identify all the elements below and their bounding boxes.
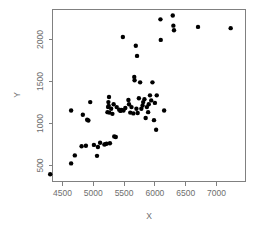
y-tick-group: 500 bbox=[35, 158, 52, 172]
data-point bbox=[162, 108, 166, 112]
data-point bbox=[95, 154, 99, 158]
y-axis-title: Y bbox=[12, 92, 22, 98]
data-point bbox=[159, 38, 163, 42]
data-point bbox=[149, 98, 153, 102]
data-point bbox=[196, 25, 200, 29]
data-point bbox=[107, 95, 111, 99]
y-tick-label: 2000 bbox=[35, 30, 45, 49]
data-point bbox=[142, 97, 146, 101]
data-point bbox=[121, 35, 125, 39]
data-point bbox=[132, 78, 136, 82]
x-tick-label: 5500 bbox=[115, 188, 134, 198]
data-point bbox=[147, 102, 151, 106]
data-point bbox=[155, 93, 159, 97]
data-point bbox=[134, 107, 138, 111]
data-point bbox=[143, 116, 147, 120]
data-point bbox=[84, 144, 88, 148]
x-tick-group: 5000 bbox=[84, 182, 103, 199]
y-tick-group: 1500 bbox=[35, 72, 52, 91]
data-point bbox=[131, 111, 135, 115]
data-point bbox=[152, 118, 156, 122]
data-point bbox=[81, 112, 85, 116]
x-tick-group: 5500 bbox=[115, 182, 134, 199]
data-point bbox=[129, 105, 133, 109]
data-point bbox=[137, 96, 141, 100]
plot-canvas: 500 1000 1500 2000 Y 4500 bbox=[0, 0, 265, 233]
data-point bbox=[134, 44, 138, 48]
data-point bbox=[106, 100, 110, 104]
data-point bbox=[109, 107, 113, 111]
x-tick-group: 4500 bbox=[53, 182, 72, 199]
x-tick-label: 4500 bbox=[53, 188, 72, 198]
data-point bbox=[135, 54, 139, 58]
x-tick-label: 5000 bbox=[84, 188, 103, 198]
data-points-layer bbox=[48, 13, 233, 176]
x-tick-label: 6500 bbox=[176, 188, 195, 198]
data-point bbox=[138, 80, 142, 84]
data-point bbox=[150, 80, 154, 84]
data-point bbox=[79, 144, 83, 148]
y-tick-group: 2000 bbox=[35, 30, 52, 49]
data-point bbox=[126, 98, 130, 102]
data-point bbox=[172, 28, 176, 32]
x-tick-label: 7000 bbox=[207, 188, 226, 198]
data-point bbox=[110, 112, 114, 116]
data-point bbox=[228, 26, 232, 30]
data-point bbox=[69, 161, 73, 165]
y-tick-label: 1000 bbox=[35, 114, 45, 133]
data-point bbox=[92, 143, 96, 147]
data-point bbox=[148, 93, 152, 97]
data-point bbox=[146, 110, 150, 114]
x-axis-title: X bbox=[146, 211, 152, 221]
x-tick-label: 6000 bbox=[145, 188, 164, 198]
data-point bbox=[153, 101, 157, 105]
data-point bbox=[86, 118, 90, 122]
data-point bbox=[48, 172, 52, 176]
x-axis: 4500 5000 5500 6000 6500 7000 X bbox=[53, 182, 226, 222]
data-point bbox=[69, 108, 73, 112]
x-tick-group: 6500 bbox=[176, 182, 195, 199]
data-point bbox=[158, 17, 162, 21]
data-point bbox=[73, 153, 77, 157]
data-point bbox=[88, 100, 92, 104]
data-point bbox=[96, 145, 100, 149]
data-point bbox=[108, 141, 112, 145]
data-point bbox=[171, 23, 175, 27]
x-tick-group: 7000 bbox=[207, 182, 226, 199]
y-axis: 500 1000 1500 2000 Y bbox=[12, 30, 52, 173]
data-point bbox=[123, 106, 127, 110]
y-tick-label: 1500 bbox=[35, 72, 45, 91]
data-point bbox=[114, 135, 118, 139]
data-point bbox=[98, 141, 102, 145]
scatter-plot-figure: 500 1000 1500 2000 Y 4500 bbox=[0, 0, 265, 233]
y-tick-group: 1000 bbox=[35, 114, 52, 133]
data-point bbox=[154, 128, 158, 132]
x-tick-group: 6000 bbox=[145, 182, 164, 199]
y-tick-label: 500 bbox=[35, 158, 45, 172]
data-point bbox=[135, 111, 139, 115]
data-point bbox=[171, 13, 175, 17]
